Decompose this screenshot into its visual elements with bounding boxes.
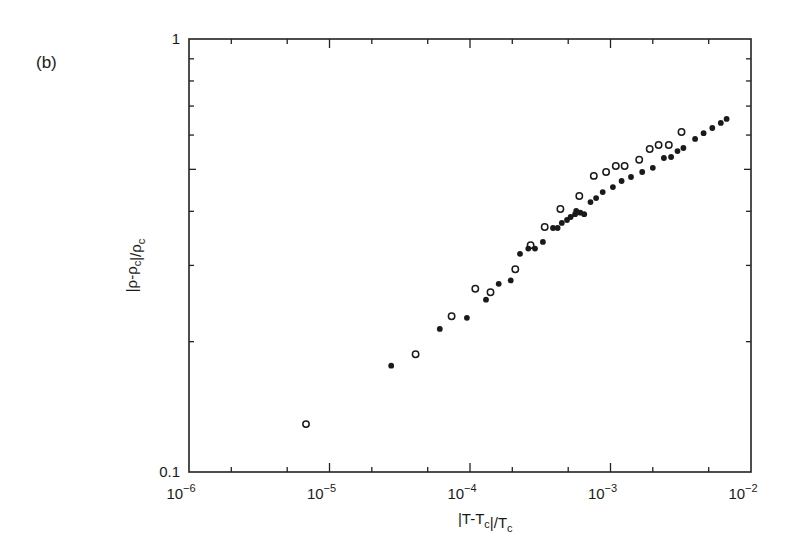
x-tick-label: 10−6 (166, 482, 195, 502)
filled-point (600, 189, 606, 195)
open-point (636, 157, 642, 163)
data-points (303, 116, 730, 427)
x-tick-label: 10−3 (588, 482, 617, 502)
y-tick-label: 0.1 (159, 463, 180, 480)
filled-point (692, 136, 698, 142)
filled-point (675, 148, 681, 154)
filled-point (718, 120, 724, 126)
filled-point (610, 184, 616, 190)
open-point (603, 169, 609, 175)
filled-point (388, 363, 394, 369)
open-point (613, 163, 619, 169)
filled-point (650, 165, 656, 171)
open-point (591, 173, 597, 179)
filled-point (483, 297, 489, 303)
open-point (472, 286, 478, 292)
x-tick-label: 10−4 (447, 482, 476, 502)
filled-point (588, 199, 594, 205)
open-point (412, 351, 418, 357)
filled-point (701, 130, 707, 136)
filled-point (681, 145, 687, 151)
open-point (303, 421, 309, 427)
filled-point (555, 225, 561, 231)
open-point (512, 266, 518, 272)
open-point (621, 163, 627, 169)
x-tick-label: 10−5 (307, 482, 336, 502)
filled-point (661, 155, 667, 161)
filled-point (581, 211, 587, 217)
filled-point (668, 154, 674, 160)
open-point (678, 129, 684, 135)
open-point (557, 206, 563, 212)
filled-point (540, 239, 546, 245)
x-axis-label: |T-Tc|/Tc (458, 510, 513, 534)
open-point (666, 142, 672, 148)
filled-point (464, 315, 470, 321)
scatter-chart: 10−610−510−410−310−210.1|T-Tc|/Tc|ρ-ρc|/… (0, 0, 804, 551)
filled-point (525, 246, 531, 252)
open-point (655, 142, 661, 148)
open-point (576, 193, 582, 199)
filled-point (639, 169, 645, 175)
filled-point (517, 251, 523, 257)
filled-point (628, 174, 634, 180)
filled-point (532, 246, 538, 252)
open-point (448, 313, 454, 319)
filled-point (619, 178, 625, 184)
open-point (487, 289, 493, 295)
axis-labels: 10−610−510−410−310−210.1|T-Tc|/Tc|ρ-ρc|/… (123, 30, 758, 534)
open-point (647, 146, 653, 152)
filled-point (724, 116, 730, 122)
filled-point (709, 125, 715, 131)
plot-frame (189, 39, 751, 472)
x-tick-label: 10−2 (728, 482, 757, 502)
open-point (542, 224, 548, 230)
filled-point (437, 326, 443, 332)
y-tick-label: 1 (172, 30, 180, 47)
y-axis-label: |ρ-ρc|/ρc (123, 238, 147, 292)
filled-point (559, 220, 565, 226)
filled-point (593, 195, 599, 201)
filled-point (496, 281, 502, 287)
axes (189, 39, 751, 472)
filled-point (508, 278, 514, 284)
